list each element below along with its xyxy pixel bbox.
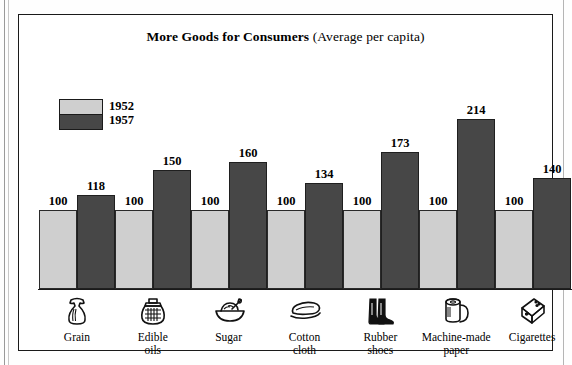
bar-value-label: 118 — [87, 179, 105, 194]
category-label: Rubbershoes — [363, 331, 397, 356]
bar-1957: 118 — [77, 195, 115, 289]
axis-baseline — [38, 289, 572, 290]
bar-group: 100118 — [39, 31, 115, 289]
bar-1957: 140 — [533, 178, 571, 289]
category-label: Cottoncloth — [289, 331, 320, 356]
bar-1957: 134 — [305, 183, 343, 289]
bar-1957: 150 — [153, 170, 191, 289]
bar-groups: 1001181001501001601001341001731002141001… — [39, 31, 570, 289]
bar-group: 100150 — [115, 31, 191, 289]
oil-jar-icon — [137, 294, 169, 328]
bar-group: 100140 — [495, 31, 571, 289]
bar-group: 100214 — [419, 31, 495, 289]
cigarette-pack-icon — [516, 294, 548, 328]
category-row: GrainEdibleoilsSugarCottonclothRubbersho… — [39, 291, 570, 365]
category-label: Cigarettes — [509, 331, 556, 344]
bar-1957: 173 — [381, 152, 419, 289]
bar-value-label: 160 — [239, 146, 258, 161]
bar-1952: 100 — [115, 210, 153, 289]
category-cell: Edibleoils — [115, 291, 191, 365]
category-label: Sugar — [215, 331, 242, 344]
bar-value-label: 214 — [467, 103, 486, 118]
bar-1952: 100 — [419, 210, 457, 289]
folded-cloth-icon — [287, 294, 323, 328]
category-cell: Sugar — [191, 291, 267, 365]
paper-roll-icon — [439, 294, 473, 328]
bar-1957: 160 — [229, 162, 267, 289]
bar-1952: 100 — [39, 210, 77, 289]
bar-value-label: 140 — [543, 162, 562, 177]
bar-value-label: 150 — [163, 154, 182, 169]
bar-value-label: 134 — [315, 167, 334, 182]
bar-1952: 100 — [495, 210, 533, 289]
category-cell: Rubbershoes — [342, 291, 418, 365]
bar-value-label: 100 — [277, 194, 296, 209]
bar-group: 100173 — [343, 31, 419, 289]
chart-frame: More Goods for Consumers (Average per ca… — [18, 14, 553, 351]
category-label: Edibleoils — [138, 331, 168, 356]
bar-value-label: 100 — [353, 194, 372, 209]
category-cell: Machine-madepaper — [418, 291, 494, 365]
category-label: Grain — [64, 331, 90, 344]
rubber-boots-icon — [365, 294, 395, 328]
grain-sack-icon — [62, 294, 92, 328]
bar-group: 100134 — [267, 31, 343, 289]
category-label: Machine-madepaper — [422, 331, 491, 356]
bar-value-label: 100 — [49, 194, 68, 209]
bar-1952: 100 — [267, 210, 305, 289]
category-cell: Cottoncloth — [267, 291, 343, 365]
sugar-bowl-icon — [212, 294, 246, 328]
plot-area: 1001181001501001601001341001731002141001… — [39, 31, 570, 289]
bar-value-label: 100 — [505, 194, 524, 209]
bar-value-label: 173 — [391, 136, 410, 151]
category-cell: Cigarettes — [494, 291, 570, 365]
page-edge-rule-left — [4, 0, 5, 365]
bar-group: 100160 — [191, 31, 267, 289]
page-edge-rule-left-inner — [8, 0, 9, 365]
bar-1952: 100 — [343, 210, 381, 289]
bar-value-label: 100 — [429, 194, 448, 209]
bar-1957: 214 — [457, 119, 495, 289]
bar-1952: 100 — [191, 210, 229, 289]
bar-value-label: 100 — [125, 194, 144, 209]
bar-value-label: 100 — [201, 194, 220, 209]
category-cell: Grain — [39, 291, 115, 365]
